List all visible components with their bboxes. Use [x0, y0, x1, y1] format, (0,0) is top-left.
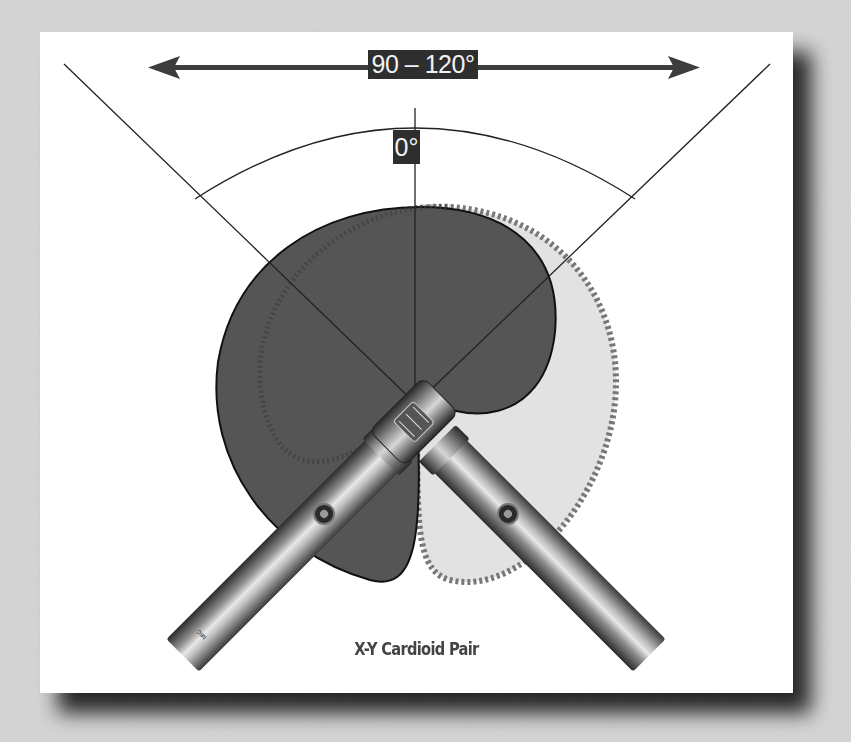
pickup-angle-label: 90 – 120°: [368, 50, 478, 79]
zero-degree-label: 0°: [393, 130, 420, 164]
diagram-panel: MIC 90 – 120° 0° X-Y Cardioid Pair: [40, 32, 793, 693]
diagram-caption: X-Y Cardioid Pair: [93, 639, 741, 659]
